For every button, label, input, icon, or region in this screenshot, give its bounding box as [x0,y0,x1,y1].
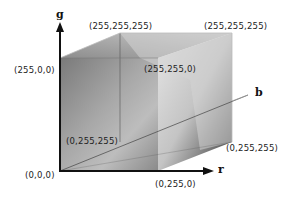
vertex-label-back-top-right: (255,255,255) [204,22,267,31]
r-axis-label: r [218,164,224,175]
g-axis-label: g [56,9,64,20]
r-axis-arrowhead [203,167,214,175]
vertex-label-inner-left: (0,255,255) [66,137,118,146]
g-axis-arrowhead [56,22,64,32]
b-axis-label: b [255,87,263,98]
vertex-label-front-top-right: (255,255,0) [144,65,196,74]
vertex-label-top-left: (255,0,0) [14,66,55,75]
vertex-label-front-bottom-right: (0,255,0) [155,180,196,189]
vertex-label-back-bottom-right: (0,255,255) [226,144,278,153]
vertex-label-origin: (0,0,0) [25,171,55,180]
vertex-label-back-top-left: (255,255,255) [89,22,152,31]
rgb-cube-diagram: g r b (255,255,255) (255,255,255) (255,0… [0,0,289,200]
cube-front-face [60,58,158,171]
